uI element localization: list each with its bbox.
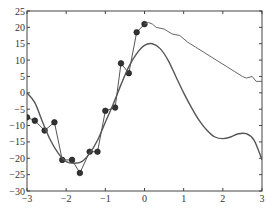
data-point-marker xyxy=(134,29,140,35)
y-tick-label: 0 xyxy=(20,87,25,98)
data-point-marker xyxy=(52,119,58,125)
x-tick-label: 2 xyxy=(220,193,225,204)
data-point-marker xyxy=(69,157,75,163)
y-tick-label: 15 xyxy=(15,38,25,49)
data-point-marker xyxy=(103,108,109,114)
x-tick-label: 0 xyxy=(142,193,147,204)
x-tick-label: −2 xyxy=(61,193,72,204)
y-tick-label: −25 xyxy=(9,169,25,180)
y-tick-label: −5 xyxy=(14,104,25,115)
y-tick-label: −20 xyxy=(9,153,25,164)
y-tick-label: 20 xyxy=(15,22,25,33)
data-point-marker xyxy=(118,61,124,67)
x-tick-label: −1 xyxy=(100,193,111,204)
data-point-marker xyxy=(77,170,83,176)
y-tick-label: 25 xyxy=(15,6,25,17)
data-point-marker xyxy=(32,118,38,124)
y-tick-label: −10 xyxy=(9,120,25,131)
y-tick-label: −30 xyxy=(9,186,25,197)
x-tick-label: 3 xyxy=(260,193,265,204)
x-tick-label: 1 xyxy=(181,193,186,204)
data-point-marker xyxy=(24,115,30,121)
line-chart: −3−2−10123 2520151050−5−10−15−20−25−30 xyxy=(0,0,266,213)
data-point-marker xyxy=(95,149,101,155)
y-tick-label: −15 xyxy=(9,136,25,147)
plot-area xyxy=(27,11,262,191)
y-tick-label: 5 xyxy=(20,71,25,82)
y-tick-label: 10 xyxy=(15,55,25,66)
